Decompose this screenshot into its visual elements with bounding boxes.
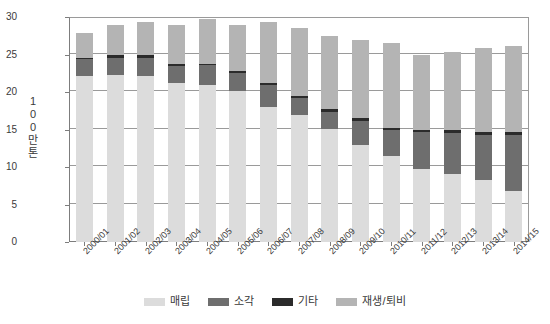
bar-segment-other[interactable]: [260, 83, 277, 85]
bar-segment-recycling[interactable]: [475, 48, 492, 132]
legend-item[interactable]: 기타: [272, 296, 318, 307]
y-axis-title-char: 0: [22, 121, 44, 134]
bar-segment-recycling[interactable]: [321, 36, 338, 110]
bar-segment-other[interactable]: [168, 64, 185, 66]
bar-segment-recycling[interactable]: [352, 40, 369, 119]
legend-label: 기타: [298, 296, 318, 307]
bar-segment-landfill[interactable]: [137, 76, 154, 242]
bar-segment-landfill[interactable]: [352, 145, 369, 243]
y-axis-title-char: 톤: [22, 147, 44, 160]
bar-segment-landfill[interactable]: [229, 91, 246, 242]
bar-segment-other[interactable]: [444, 130, 461, 133]
bar-segment-landfill[interactable]: [168, 83, 185, 242]
bar-segment-recycling[interactable]: [413, 55, 430, 130]
legend-label: 소각: [234, 296, 254, 307]
legend-swatch: [144, 298, 165, 306]
bar-segment-recycling[interactable]: [137, 22, 154, 56]
bar-segment-landfill[interactable]: [291, 115, 308, 243]
legend-swatch: [208, 298, 229, 306]
bar-segment-incineration[interactable]: [76, 59, 93, 76]
bar-segment-incineration[interactable]: [444, 133, 461, 174]
bar-segment-landfill[interactable]: [383, 156, 400, 242]
bar-segment-recycling[interactable]: [291, 28, 308, 96]
y-axis-tick-label: 20: [0, 86, 17, 97]
bar-segment-recycling[interactable]: [76, 33, 93, 58]
bar-segment-recycling[interactable]: [229, 25, 246, 71]
legend-label: 재생/퇴비: [362, 296, 405, 307]
y-axis-title-char: 0: [22, 108, 44, 121]
y-axis-tick-label: 0: [0, 236, 17, 247]
bar-segment-landfill[interactable]: [199, 85, 216, 242]
bar-segment-other[interactable]: [137, 55, 154, 57]
legend-item[interactable]: 재생/퇴비: [336, 296, 405, 307]
legend-swatch: [336, 298, 357, 306]
bar-segment-incineration[interactable]: [321, 112, 338, 129]
bar-segment-other[interactable]: [413, 130, 430, 132]
bar-segment-recycling[interactable]: [444, 52, 461, 130]
y-axis-title-char: 1: [22, 95, 44, 108]
bar-series-layer: [69, 17, 529, 242]
bar-segment-incineration[interactable]: [352, 121, 369, 145]
bar-segment-incineration[interactable]: [291, 98, 308, 115]
bar-segment-incineration[interactable]: [229, 73, 246, 92]
bar-segment-recycling[interactable]: [505, 46, 522, 132]
y-axis-tick-mark: [65, 242, 69, 243]
waste-management-stacked-bar-chart: 1 0 0 만 톤 051015202530 2000/012001/02200…: [0, 0, 550, 324]
y-axis-tick-label: 25: [0, 49, 17, 60]
y-axis-tick-label: 10: [0, 161, 17, 172]
bar-segment-recycling[interactable]: [107, 25, 124, 55]
y-axis-title: 1 0 0 만 톤: [22, 95, 44, 160]
bar-segment-other[interactable]: [505, 132, 522, 135]
bar-segment-incineration[interactable]: [383, 130, 400, 156]
bar-segment-other[interactable]: [76, 58, 93, 60]
legend-label: 매립: [170, 296, 190, 307]
bar-segment-other[interactable]: [352, 118, 369, 120]
bar-segment-incineration[interactable]: [413, 132, 430, 169]
chart-legend: 매립소각기타재생/퇴비: [0, 296, 550, 307]
bar-segment-incineration[interactable]: [260, 85, 277, 108]
bar-segment-landfill[interactable]: [76, 76, 93, 242]
y-axis-tick-label: 30: [0, 11, 17, 22]
bar-segment-incineration[interactable]: [137, 58, 154, 77]
bar-segment-other[interactable]: [321, 109, 338, 111]
y-axis-title-char: 만: [22, 134, 44, 147]
bar-segment-other[interactable]: [383, 128, 400, 130]
legend-item[interactable]: 매립: [144, 296, 190, 307]
bar-segment-landfill[interactable]: [260, 107, 277, 242]
bar-segment-other[interactable]: [107, 55, 124, 57]
bar-segment-other[interactable]: [229, 71, 246, 73]
bar-segment-recycling[interactable]: [260, 22, 277, 83]
bar-segment-landfill[interactable]: [321, 129, 338, 242]
bar-segment-incineration[interactable]: [505, 135, 522, 191]
y-axis-tick-label: 5: [0, 199, 17, 210]
bar-segment-incineration[interactable]: [168, 66, 185, 83]
bar-segment-recycling[interactable]: [383, 43, 400, 129]
bar-segment-incineration[interactable]: [107, 58, 124, 75]
bar-segment-incineration[interactable]: [199, 65, 216, 85]
bar-segment-other[interactable]: [199, 64, 216, 66]
bar-segment-other[interactable]: [475, 132, 492, 135]
bar-segment-other[interactable]: [291, 96, 308, 98]
legend-item[interactable]: 소각: [208, 296, 254, 307]
y-axis-tick-label: 15: [0, 124, 17, 135]
bar-segment-recycling[interactable]: [199, 19, 216, 63]
legend-swatch: [272, 298, 293, 306]
bar-segment-recycling[interactable]: [168, 25, 185, 64]
bar-segment-incineration[interactable]: [475, 135, 492, 180]
bar-segment-landfill[interactable]: [107, 75, 124, 242]
